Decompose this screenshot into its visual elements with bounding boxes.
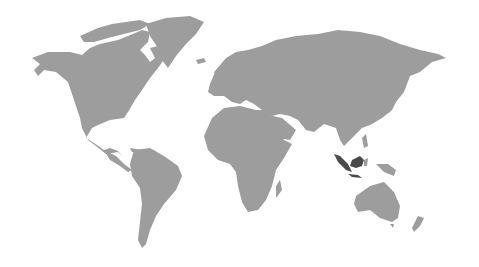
region-iceland xyxy=(196,58,206,64)
region-sumatra xyxy=(334,154,352,172)
world-map xyxy=(0,0,479,267)
region-java xyxy=(348,174,362,178)
region-sulawesi xyxy=(364,158,368,166)
region-north-america xyxy=(32,30,165,156)
region-madagascar xyxy=(276,180,282,198)
region-south-america xyxy=(130,148,182,248)
highlighted-country-indonesia xyxy=(334,154,368,178)
region-new-zealand xyxy=(412,216,424,232)
region-australia xyxy=(354,182,400,222)
region-philippines xyxy=(362,134,368,148)
region-new-guinea xyxy=(376,164,396,176)
region-tasmania xyxy=(390,224,394,228)
continents xyxy=(32,16,446,248)
region-central-america xyxy=(104,150,132,172)
region-kalimantan xyxy=(350,156,364,168)
